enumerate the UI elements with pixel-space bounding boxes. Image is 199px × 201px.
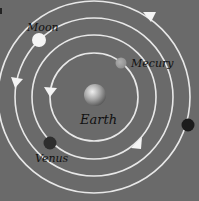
outer-planet-body <box>182 119 195 132</box>
orbit-diagram: Moon Mecury Earth Venus <box>0 0 199 201</box>
arrow-icon-outer <box>143 12 156 22</box>
mercury-label: Mecury <box>130 57 174 70</box>
arrow-icon-left-inner <box>44 87 57 97</box>
moon-body <box>32 33 46 47</box>
arrow-icon-left-outer <box>11 77 23 88</box>
mercury-body <box>116 58 127 69</box>
venus-label: Venus <box>35 152 69 165</box>
moon-label: Moon <box>26 21 59 34</box>
arrow-icon-bottom <box>131 137 142 149</box>
earth-label: Earth <box>79 112 117 127</box>
earth-body <box>84 84 106 106</box>
orbit-diagram-canvas: Moon Mecury Earth Venus <box>0 0 199 201</box>
venus-body <box>44 137 57 150</box>
edge-mark <box>0 8 2 14</box>
